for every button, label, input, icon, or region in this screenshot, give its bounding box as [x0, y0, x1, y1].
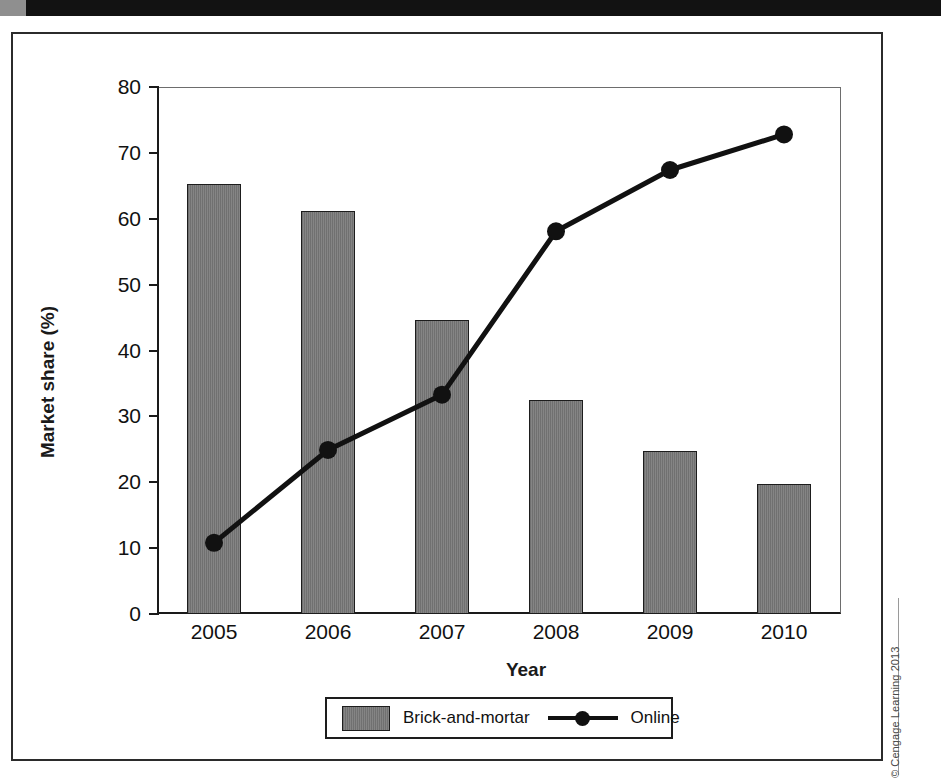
y-axis-tick: [149, 547, 159, 549]
y-axis-tick-label: 80: [41, 75, 141, 99]
y-axis-tick: [149, 218, 159, 220]
page-header-bar: [0, 0, 941, 16]
y-axis-tick-label: 40: [41, 339, 141, 363]
chart-legend: Brick-and-mortar Online: [325, 697, 673, 739]
y-axis-tick-label: 30: [41, 404, 141, 428]
bar: [415, 320, 469, 614]
y-axis-tick-label: 50: [41, 273, 141, 297]
y-axis-tick: [149, 152, 159, 154]
bar: [187, 184, 241, 614]
x-axis-tick-label: 2009: [647, 620, 694, 644]
x-axis-tick-label: 2007: [419, 620, 466, 644]
y-axis-tick: [149, 284, 159, 286]
x-axis-title-text: Year: [506, 659, 546, 681]
y-axis-tick: [149, 613, 159, 615]
y-axis-tick-label: 20: [41, 470, 141, 494]
bar: [301, 211, 355, 614]
y-axis-tick-label: 10: [41, 536, 141, 560]
y-axis-tick-label: 0: [41, 602, 141, 626]
x-axis-tick-label: 2006: [305, 620, 352, 644]
y-axis-tick: [149, 350, 159, 352]
plot-area: [157, 87, 841, 614]
legend-swatch-bar-icon: [342, 706, 390, 731]
legend-line-marker-icon: [548, 710, 618, 726]
legend-entry-brick-and-mortar: Brick-and-mortar: [327, 706, 530, 731]
y-axis-tick: [149, 86, 159, 88]
legend-label-online: Online: [631, 708, 680, 728]
chart-container: Market share (%) 01020304050607080 20052…: [13, 34, 885, 759]
x-axis-tick-label: 2008: [533, 620, 580, 644]
x-axis-title: Year: [13, 659, 885, 681]
figure-frame: Market share (%) 01020304050607080 20052…: [11, 32, 883, 761]
bar: [757, 484, 811, 614]
y-axis-tick-label: 60: [41, 207, 141, 231]
y-axis-title: Market share (%): [37, 306, 59, 458]
y-axis-tick: [149, 415, 159, 417]
bar: [643, 451, 697, 614]
legend-line-dot: [575, 711, 590, 726]
copyright-credit: © Cengage Learning 2013: [889, 628, 901, 778]
legend-label-brick-and-mortar: Brick-and-mortar: [403, 708, 530, 728]
bar: [529, 400, 583, 614]
y-axis-tick-label: 70: [41, 141, 141, 165]
x-axis-tick-label: 2010: [761, 620, 808, 644]
y-axis-tick: [149, 481, 159, 483]
x-axis-tick-label: 2005: [191, 620, 238, 644]
page-header-bar-nub: [0, 0, 26, 16]
legend-entry-online: Online: [530, 708, 680, 728]
